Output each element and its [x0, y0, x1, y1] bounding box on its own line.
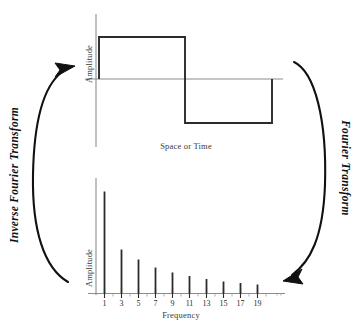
x-tick-label: 15: [220, 299, 228, 308]
fourier-transform-label: Fourier Transform: [339, 119, 352, 216]
x-tick-label: 5: [137, 299, 141, 308]
inverse-fourier-transform-label: Inverse Fourier Transform: [8, 107, 21, 244]
figure-background: [0, 0, 360, 332]
top-plot-x-axis-label: Space or Time: [160, 141, 212, 151]
fourier-transform-diagram: Amplitude Space or Time: [0, 0, 360, 332]
x-tick-label: 13: [203, 299, 211, 308]
bottom-plot-x-axis-label: Frequency: [162, 310, 200, 320]
bottom-plot-y-axis-label: Amplitude: [84, 249, 94, 287]
x-tick-label: 17: [237, 299, 245, 308]
x-tick-label: 1: [103, 299, 107, 308]
x-tick-label: 19: [254, 299, 262, 308]
x-tick-label: 7: [154, 299, 158, 308]
x-tick-label: 9: [171, 299, 175, 308]
x-tick-label: 11: [186, 299, 194, 308]
x-tick-label: 3: [120, 299, 124, 308]
top-plot-y-axis-label: Amplitude: [84, 45, 94, 83]
